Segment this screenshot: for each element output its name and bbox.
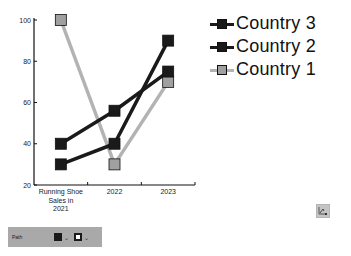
x-tick-label: Running Shoe (39, 188, 83, 196)
data-point-marker[interactable] (55, 159, 66, 170)
legend-marker-icon (210, 40, 234, 54)
x-tick-label: 2021 (53, 205, 69, 212)
path-toolbar: Path ⌄ ⌄ (8, 227, 102, 247)
stroke-color-swatch[interactable] (74, 233, 82, 241)
path-label: Path (12, 234, 54, 240)
x-tick-label: Sales in (48, 197, 73, 204)
legend-marker-icon (210, 63, 234, 77)
data-point-marker[interactable] (109, 138, 120, 149)
chevron-down-icon[interactable]: ⌄ (64, 234, 69, 241)
data-point-marker[interactable] (163, 35, 174, 46)
data-point-marker[interactable] (55, 15, 66, 26)
data-point-marker[interactable] (163, 76, 174, 87)
x-tick-label: 2022 (107, 188, 123, 195)
legend-item-country-3[interactable]: Country 3 (210, 12, 316, 35)
x-tick-label: 2023 (160, 188, 176, 195)
y-tick-label: 100 (19, 17, 31, 24)
legend-square (217, 65, 227, 75)
chevron-down-icon[interactable]: ⌄ (84, 234, 89, 241)
legend-marker-icon (210, 17, 234, 31)
legend-square (217, 42, 227, 52)
legend-label: Country 3 (236, 13, 316, 34)
y-tick-label: 60 (23, 99, 31, 106)
data-point-marker[interactable] (55, 138, 66, 149)
chart-series (55, 15, 173, 170)
chart-properties-button[interactable] (316, 204, 330, 218)
legend-item-country-2[interactable]: Country 2 (210, 35, 316, 58)
legend-label: Country 2 (236, 36, 316, 57)
fill-color-swatch[interactable] (54, 233, 62, 241)
legend-item-country-1[interactable]: Country 1 (210, 58, 316, 81)
legend-square (217, 19, 227, 29)
chart-properties-icon (318, 206, 328, 216)
y-tick-label: 80 (23, 58, 31, 65)
data-point-marker[interactable] (163, 66, 174, 77)
legend-label: Country 1 (236, 59, 316, 80)
y-tick-label: 40 (23, 140, 31, 147)
y-tick-label: 20 (23, 182, 31, 189)
data-point-marker[interactable] (109, 105, 120, 116)
chart-legend: Country 3 Country 2 Country 1 (210, 12, 316, 81)
data-point-marker[interactable] (109, 159, 120, 170)
